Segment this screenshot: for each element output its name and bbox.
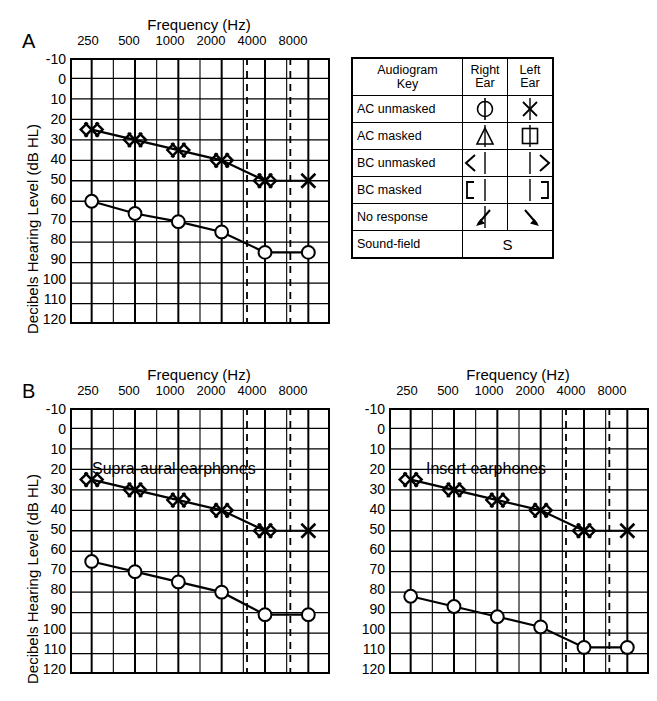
legend-row-no-response: No response: [352, 204, 553, 231]
panel-b-right-ytick-90: 90: [341, 601, 385, 617]
panel-a-ytick-60: 60: [22, 191, 66, 207]
panel-b-left-plot: [70, 408, 330, 674]
legend-left-ear-header: Left Ear: [508, 58, 554, 96]
panel-a-xtick-8000: 8000: [267, 33, 319, 48]
panel-b-left-xtick-8000: 8000: [267, 383, 319, 398]
legend-label-sound-field: Sound-field: [352, 231, 463, 259]
panel-b-left-ytick-30: 30: [22, 481, 66, 497]
triangle-icon: [463, 123, 508, 150]
panel-b-right-ytick-120: 120: [341, 661, 385, 677]
panel-b-right: Frequency (Hz) 250 500 1000 2000 4000 80…: [330, 350, 657, 701]
panel-b-right-ytick-60: 60: [341, 541, 385, 557]
panel-b-right-ytick-100: 100: [341, 621, 385, 637]
panel-b-right-inner-label: Insert earphones: [426, 460, 546, 478]
panel-a-ytick-10: 10: [22, 91, 66, 107]
legend-row-ac-masked: AC masked: [352, 123, 553, 150]
panel-a-ytick-30: 30: [22, 131, 66, 147]
panel-b-left-ytick-60: 60: [22, 541, 66, 557]
panel-b-right-ytick-30: 30: [341, 481, 385, 497]
legend-label-no-response: No response: [352, 204, 463, 231]
panel-b-left-ytick-10: 10: [22, 441, 66, 457]
square-icon: [508, 123, 554, 150]
panel-a: A Frequency (Hz) Decibels Hearing Level …: [0, 0, 340, 350]
arrow-down-right-icon: [508, 204, 554, 231]
legend-label-bc-unmasked: BC unmasked: [352, 150, 463, 177]
panel-a-ytick-90: 90: [22, 251, 66, 267]
legend-label-bc-masked: BC masked: [352, 177, 463, 204]
panel-b-right-plot: [389, 408, 649, 674]
panel-a-ytick-20: 20: [22, 111, 66, 127]
greater-than-icon: [508, 150, 554, 177]
circle-icon: [463, 96, 508, 123]
legend-right-ear-header: Right Ear: [463, 58, 508, 96]
panel-b-left-ytick-100: 100: [22, 621, 66, 637]
panel-b-right-ytick-80: 80: [341, 581, 385, 597]
panel-a-ytick-0: 0: [22, 71, 66, 87]
panel-b-right-ytick-20: 20: [341, 461, 385, 477]
panel-a-letter: A: [22, 30, 35, 53]
panel-b-right-ytick-110: 110: [341, 641, 385, 657]
left-bracket-icon: [463, 177, 508, 204]
legend-title-line2: Key: [353, 77, 462, 91]
panel-b-left-ytick-70: 70: [22, 561, 66, 577]
panel-b-left-ytick-120: 120: [22, 661, 66, 677]
panel-a-ytick-110: 110: [22, 291, 66, 307]
panel-a-ytick-100: 100: [22, 271, 66, 287]
legend-row-bc-unmasked: BC unmasked: [352, 150, 553, 177]
panel-b-right-xtick-8000: 8000: [586, 383, 638, 398]
legend-title-line1: Audiogram: [353, 63, 462, 77]
right-bracket-icon: [508, 177, 554, 204]
legend-row-ac-unmasked: AC unmasked: [352, 96, 553, 123]
panel-b-left-ytick-80: 80: [22, 581, 66, 597]
panel-b-left-ytick-90: 90: [22, 601, 66, 617]
panel-b-right-ytick-0: 0: [341, 421, 385, 437]
legend-title-cell: Audiogram Key: [352, 58, 463, 96]
panel-b-right-x-axis-title: Frequency (Hz): [387, 366, 649, 383]
panel-a-ytick-70: 70: [22, 211, 66, 227]
legend-right-line1: Right: [463, 64, 507, 78]
panel-a-ytick--10: -10: [22, 51, 66, 67]
sound-field-symbol: S: [463, 231, 554, 259]
panel-b-left-ytick-50: 50: [22, 521, 66, 537]
legend-label-ac-unmasked: AC unmasked: [352, 96, 463, 123]
panel-b-left-inner-label: Supra-aural earphones: [92, 460, 256, 478]
legend-label-ac-masked: AC masked: [352, 123, 463, 150]
legend-left-line2: Ear: [508, 77, 552, 91]
legend-row-sound-field: Sound-field S: [352, 231, 553, 259]
panel-b-right-ytick--10: -10: [341, 401, 385, 417]
legend-right-line2: Ear: [463, 77, 507, 91]
panel-b-left-ytick-20: 20: [22, 461, 66, 477]
audiogram-key-table: Audiogram Key Right Ear Left Ear AC unma…: [351, 57, 554, 259]
panel-a-ytick-50: 50: [22, 171, 66, 187]
panel-b-left-ytick-110: 110: [22, 641, 66, 657]
panel-b-right-ytick-50: 50: [341, 521, 385, 537]
panel-b-right-ytick-40: 40: [341, 501, 385, 517]
panel-b-left-ytick-40: 40: [22, 501, 66, 517]
panel-b-left: B Frequency (Hz) Decibels Hearing Level …: [0, 350, 340, 701]
legend-row-bc-masked: BC masked: [352, 177, 553, 204]
x-icon: [508, 96, 554, 123]
panel-a-x-axis-title: Frequency (Hz): [68, 16, 330, 33]
panel-b-left-ytick-0: 0: [22, 421, 66, 437]
panel-b-left-ytick--10: -10: [22, 401, 66, 417]
legend-left-line1: Left: [508, 64, 552, 78]
panel-a-ytick-120: 120: [22, 311, 66, 327]
panel-a-ytick-40: 40: [22, 151, 66, 167]
panel-b-right-ytick-70: 70: [341, 561, 385, 577]
panel-a-plot: [70, 58, 330, 324]
panel-b-right-ytick-10: 10: [341, 441, 385, 457]
panel-a-ytick-80: 80: [22, 231, 66, 247]
panel-b-letter: B: [22, 380, 35, 403]
legend-header-row: Audiogram Key Right Ear Left Ear: [352, 58, 553, 96]
arrow-down-left-icon: [463, 204, 508, 231]
panel-b-left-x-axis-title: Frequency (Hz): [68, 366, 330, 383]
less-than-icon: [463, 150, 508, 177]
